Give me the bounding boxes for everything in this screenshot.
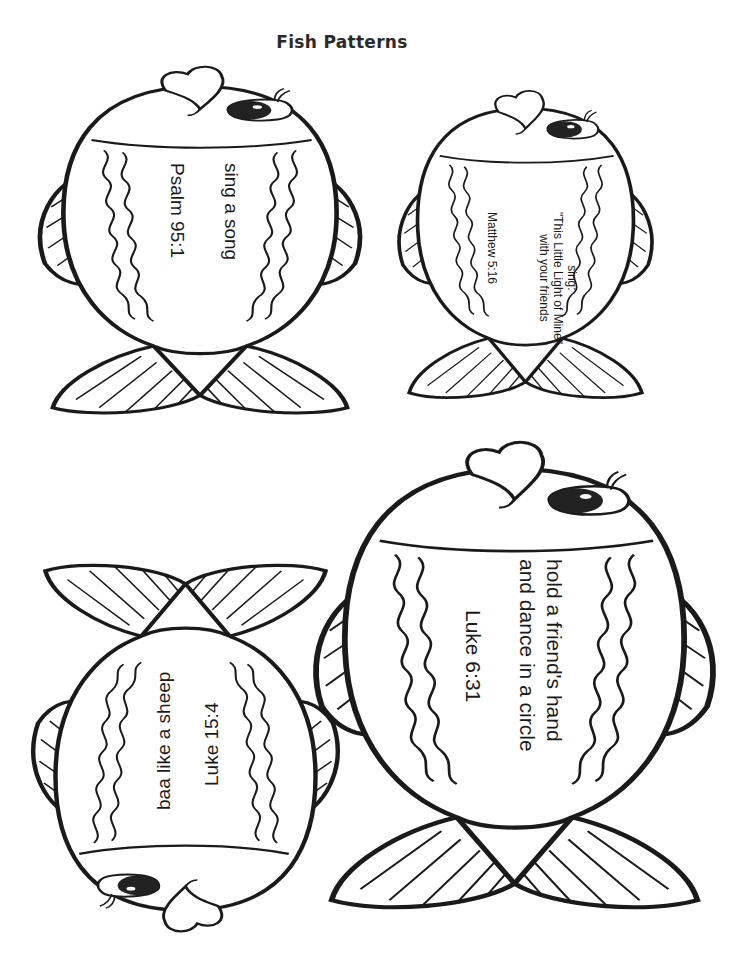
fish-2-reference: Matthew 5:16 bbox=[485, 212, 499, 284]
fish-outline-icon bbox=[45, 68, 355, 418]
fish-pattern-3: hold a friend's hand and dance in a circ… bbox=[322, 444, 707, 914]
fish-outline-icon bbox=[38, 560, 333, 930]
fish-2-activity: sing: "This Little Light of Mine" with y… bbox=[537, 212, 579, 344]
fish-1-reference: Psalm 95:1 bbox=[166, 163, 188, 258]
fish-4-reference: Luke 15:4 bbox=[201, 703, 223, 786]
page-title: Fish Patterns bbox=[0, 32, 684, 52]
fish-pattern-1: sing a song Psalm 95:1 bbox=[45, 68, 355, 418]
fish-outline-icon bbox=[403, 92, 648, 402]
fish-3-reference: Luke 6:31 bbox=[461, 610, 485, 702]
fish-3-activity: hold a friend's hand and dance in a circ… bbox=[514, 559, 568, 752]
fish-pattern-2: sing: "This Little Light of Mine" with y… bbox=[403, 92, 648, 402]
fish-pattern-4: baa like a sheep Luke 15:4 bbox=[38, 560, 333, 930]
fish-1-activity: sing a song bbox=[220, 163, 242, 260]
fish-4-activity: baa like a sheep bbox=[153, 672, 175, 810]
